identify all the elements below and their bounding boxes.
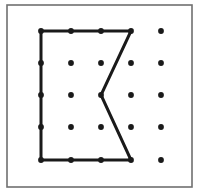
peg-dot-r3c4 bbox=[128, 92, 134, 98]
peg-dot-r2c4 bbox=[128, 60, 134, 66]
geoboard-canvas bbox=[0, 0, 201, 194]
peg-dot-r4c4 bbox=[128, 124, 134, 130]
peg-dot-r5c1 bbox=[38, 157, 44, 163]
peg-dot-r1c2 bbox=[68, 28, 74, 34]
peg-dot-r2c2 bbox=[68, 60, 74, 66]
peg-dot-r5c3 bbox=[98, 157, 104, 163]
peg-dot-r4c2 bbox=[68, 124, 74, 130]
peg-dot-r1c3 bbox=[98, 28, 104, 34]
peg-dot-r3c3 bbox=[98, 92, 104, 98]
peg-dot-r3c1 bbox=[38, 92, 44, 98]
geoboard-figure bbox=[0, 0, 201, 194]
peg-dot-r2c3 bbox=[98, 60, 104, 66]
peg-dot-r2c5 bbox=[158, 60, 164, 66]
peg-dot-r5c5 bbox=[158, 157, 164, 163]
peg-dot-r5c4 bbox=[128, 157, 134, 163]
peg-dot-r4c1 bbox=[38, 124, 44, 130]
peg-dot-r3c2 bbox=[68, 92, 74, 98]
peg-dot-r1c5 bbox=[158, 28, 164, 34]
peg-dot-r4c3 bbox=[98, 124, 104, 130]
peg-dot-r2c1 bbox=[38, 60, 44, 66]
peg-dot-r1c1 bbox=[38, 28, 44, 34]
peg-dot-r4c5 bbox=[158, 124, 164, 130]
peg-dot-r1c4 bbox=[128, 28, 134, 34]
peg-dot-r5c2 bbox=[68, 157, 74, 163]
peg-dot-r3c5 bbox=[158, 92, 164, 98]
